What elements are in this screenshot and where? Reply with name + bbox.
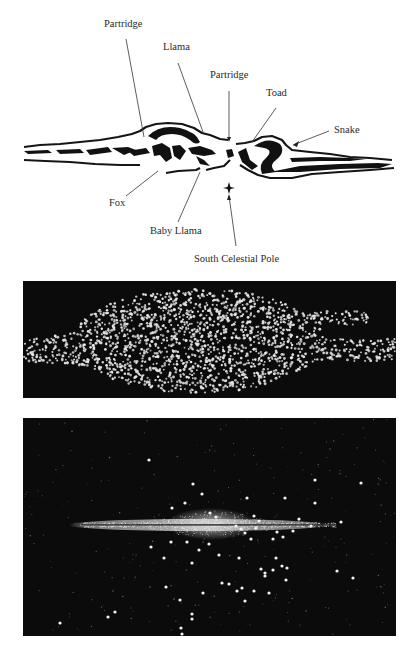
- label-llama: Llama: [163, 41, 190, 52]
- star-field-drawing: [23, 281, 396, 398]
- label-snake: Snake: [334, 124, 360, 135]
- star-field-panel: [23, 281, 396, 398]
- label-partridge-left: Partridge: [104, 18, 143, 29]
- pole-star-icon: [223, 182, 235, 194]
- label-toad: Toad: [266, 87, 287, 98]
- milky-way-photo-panel: [23, 418, 396, 636]
- label-fox: Fox: [109, 197, 125, 208]
- label-partridge-center: Partridge: [210, 69, 249, 80]
- milky-way-photo: [23, 418, 396, 636]
- label-baby-llama: Baby Llama: [150, 225, 202, 236]
- label-south-celestial-pole: South Celestial Pole: [194, 253, 279, 264]
- figure: Partridge Llama Partridge Toad Snake Fox…: [0, 0, 415, 651]
- dark-cloud-diagram: [0, 0, 415, 270]
